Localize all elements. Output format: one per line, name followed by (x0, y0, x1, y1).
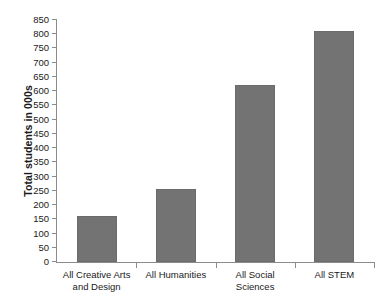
y-axis-tick-mark (52, 90, 56, 91)
x-axis-tick-mark (295, 263, 296, 268)
x-axis-label: All STEM (295, 269, 374, 281)
bar (156, 189, 196, 262)
y-axis-tick-mark (52, 261, 56, 262)
y-axis-tick-label: 0 (44, 255, 49, 268)
y-axis-tick-mark (52, 233, 56, 234)
y-axis-tick-mark (52, 161, 56, 162)
y-axis-tick-mark (52, 218, 56, 219)
x-axis-label-line: All Humanities (136, 269, 215, 281)
y-axis-tick-label: 550 (33, 98, 49, 111)
y-axis-tick-mark (52, 76, 56, 77)
y-axis-tick-mark (52, 19, 56, 20)
bar (235, 85, 275, 262)
y-axis-tick-label: 400 (33, 141, 49, 154)
plot-area (57, 20, 374, 262)
y-axis-tick-label: 450 (33, 127, 49, 140)
y-axis-tick-label: 150 (33, 212, 49, 225)
y-axis-tick-label: 50 (38, 241, 49, 254)
y-axis-tick-label: 250 (33, 184, 49, 197)
x-axis-label-line: Sciences (216, 281, 295, 293)
bar-chart: Total students in 000s 05010015020025030… (0, 0, 381, 304)
y-axis-tick-label: 300 (33, 170, 49, 183)
y-axis-tick-mark (52, 47, 56, 48)
y-axis-tick-label: 600 (33, 84, 49, 97)
x-axis-tick-mark (374, 263, 375, 268)
x-axis-label: All SocialSciences (216, 269, 295, 293)
y-axis-tick-mark (52, 104, 56, 105)
y-axis-tick-label: 850 (33, 13, 49, 26)
x-axis-label: All Humanities (136, 269, 215, 281)
x-axis-tick-mark (136, 263, 137, 268)
x-axis-label-line: All Creative Arts (57, 269, 136, 281)
y-axis-tick-mark (52, 190, 56, 191)
y-axis-tick-mark (52, 176, 56, 177)
y-axis-tick-mark (52, 62, 56, 63)
y-axis-tick-mark (52, 33, 56, 34)
x-axis-label-line: and Design (57, 281, 136, 293)
bar (77, 216, 117, 262)
x-axis-label: All Creative Artsand Design (57, 269, 136, 293)
y-axis-tick-mark (52, 247, 56, 248)
y-axis-tick-mark (52, 147, 56, 148)
y-axis-tick-label: 800 (33, 27, 49, 40)
y-axis-tick-label: 200 (33, 198, 49, 211)
y-axis-tick-label: 500 (33, 113, 49, 126)
x-axis-tick-mark (216, 263, 217, 268)
y-axis-tick-label: 650 (33, 70, 49, 83)
x-axis-label-line: All STEM (295, 269, 374, 281)
y-axis-tick-label: 700 (33, 56, 49, 69)
y-axis-tick-label: 350 (33, 155, 49, 168)
y-axis-tick-mark (52, 119, 56, 120)
y-axis-tick-mark (52, 133, 56, 134)
y-axis-tick-label: 100 (33, 227, 49, 240)
y-axis-tick-mark (52, 204, 56, 205)
x-axis-label-line: All Social (216, 269, 295, 281)
y-axis-tick-label: 750 (33, 41, 49, 54)
bar (314, 31, 354, 262)
